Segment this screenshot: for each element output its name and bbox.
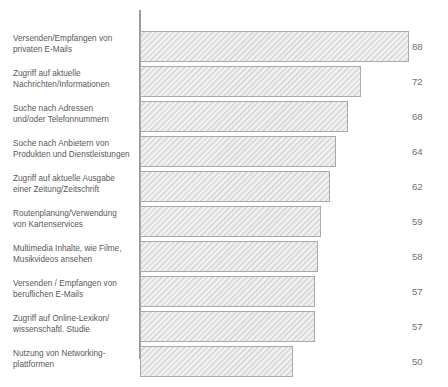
bar-value-label: 88 <box>412 42 423 52</box>
category-label: Versenden / Empfangen von beruflichen E-… <box>13 278 135 301</box>
category-label: Nutzung von Networking- plattformen <box>13 348 135 371</box>
bar <box>140 206 321 237</box>
bar-value-label: 64 <box>412 147 423 157</box>
category-label: Zugriff auf Online-Lexikon/ wissenschaft… <box>13 313 135 336</box>
bar <box>140 101 348 132</box>
bar-value-label: 62 <box>412 182 423 192</box>
bar <box>140 311 315 342</box>
bar <box>140 276 315 307</box>
category-label: Zugriff auf aktuelle Ausgabe einer Zeitu… <box>13 173 135 196</box>
value-label-column: 88 72 68 64 62 59 58 57 57 50 <box>412 0 448 387</box>
category-label: Suche nach Adressen und/oder Telefonnumm… <box>13 103 135 126</box>
bar <box>140 31 409 62</box>
bar-value-label: 59 <box>412 217 423 227</box>
bar-value-label: 58 <box>412 252 423 262</box>
category-label-column: Versenden/Empfangen von privaten E-Mails… <box>0 0 135 387</box>
category-label: Routenplanung/Verwendung von Kartenservi… <box>13 208 135 231</box>
plot-area <box>140 0 448 387</box>
bar-chart: Versenden/Empfangen von privaten E-Mails… <box>0 0 448 387</box>
bar-value-label: 68 <box>412 112 423 122</box>
category-label: Suche nach Anbietern von Produkten und D… <box>13 138 135 161</box>
category-label: Multimedia Inhalte, wie Filme, Musikvide… <box>13 243 135 266</box>
bar-value-label: 72 <box>412 77 423 87</box>
bar <box>140 136 336 167</box>
bar-value-label: 57 <box>412 287 423 297</box>
bar <box>140 171 330 202</box>
category-label: Versenden/Empfangen von privaten E-Mails <box>13 33 135 56</box>
bar <box>140 346 293 377</box>
bar-value-label: 50 <box>412 357 423 367</box>
bar <box>140 241 318 272</box>
category-label: Zugriff auf aktuelle Nachrichten/Informa… <box>13 68 135 91</box>
bar <box>140 66 361 97</box>
bar-value-label: 57 <box>412 322 423 332</box>
